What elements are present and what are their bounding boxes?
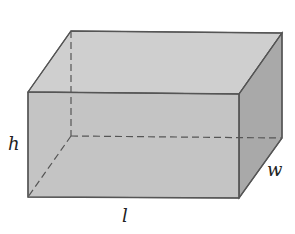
length-label: l: [122, 205, 128, 226]
front-face: [28, 92, 239, 198]
width-label: w: [267, 159, 283, 180]
top-face: [28, 31, 282, 94]
rectangular-prism-diagram: h w l: [0, 0, 295, 234]
height-label: h: [8, 133, 20, 154]
